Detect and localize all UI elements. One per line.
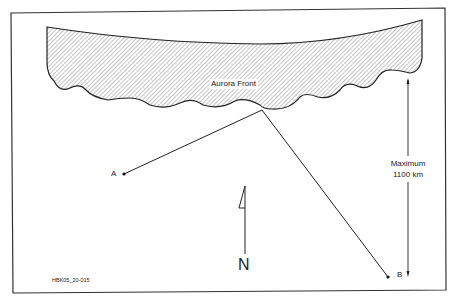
- sightline-b: [262, 110, 388, 277]
- max-distance-label-line1: Maximum: [384, 158, 432, 169]
- max-distance-label-line2: 1100 km: [384, 169, 432, 180]
- north-arrow-icon: [239, 186, 245, 254]
- max-distance-label: Maximum 1100 km: [384, 158, 432, 180]
- point-a-label: A: [111, 169, 116, 178]
- arrowhead-down-icon: [407, 271, 410, 277]
- point-b-marker: [386, 275, 389, 278]
- aurora-front-band: [47, 20, 422, 109]
- aurora-front-label: Aurora Front: [209, 79, 258, 89]
- point-b-label: B: [397, 270, 402, 279]
- figure-id: HBK05_20-015: [52, 277, 90, 283]
- aurora-diagram: [0, 0, 449, 297]
- sightline-a: [124, 110, 262, 174]
- point-a-marker: [122, 172, 125, 175]
- arrowhead-up-icon: [407, 78, 410, 84]
- north-label: N: [238, 256, 250, 274]
